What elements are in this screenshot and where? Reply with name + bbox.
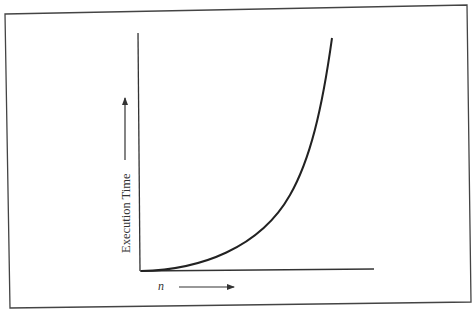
x-axis-label-group: n	[158, 279, 234, 293]
y-axis-label-group: Execution Time	[119, 98, 133, 253]
y-axis-label: Execution Time	[119, 173, 133, 253]
chart: Execution Time n	[0, 0, 474, 322]
x-axis-label: n	[158, 279, 164, 293]
y-axis	[138, 33, 140, 271]
x-axis	[140, 269, 374, 271]
chart-frame	[5, 5, 471, 308]
execution-time-curve	[141, 38, 332, 271]
